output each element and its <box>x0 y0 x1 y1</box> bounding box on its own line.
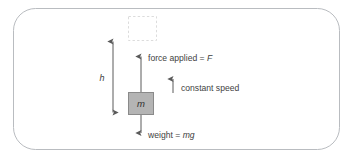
weight-label-symbol: mg <box>183 130 195 140</box>
mass-block-symbol: m <box>137 98 145 109</box>
weight-label: weight = mg <box>147 130 195 140</box>
force-label: force applied = F <box>148 53 213 63</box>
height-label: h <box>99 73 104 83</box>
force-label-prefix: force applied = <box>148 53 207 63</box>
figure-border <box>14 9 340 150</box>
physics-diagram-figure: m h force applied = F constant speed wei… <box>0 0 353 159</box>
constant-speed-label: constant speed <box>181 83 240 93</box>
diagram-canvas: m h force applied = F constant speed wei… <box>0 0 353 159</box>
force-label-symbol: F <box>207 53 213 63</box>
weight-label-prefix: weight = <box>147 130 183 140</box>
